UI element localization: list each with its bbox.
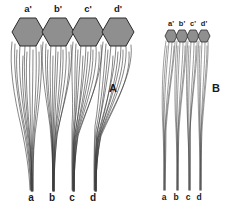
label-b-b-bottom: b (173, 192, 178, 202)
label-b-d-prime-top: d' (201, 19, 208, 28)
panel-letter-b: B (212, 82, 220, 94)
cell-b-c-prime (187, 30, 199, 42)
cell-b-d-prime (198, 30, 210, 42)
label-a-prime-top: a' (24, 3, 32, 14)
label-b-c-bottom: c (186, 192, 191, 202)
diagram-canvas: a' b' c' d' a b c d A (0, 0, 231, 208)
label-a-bottom: a (28, 192, 34, 203)
figure-root: a' b' c' d' a b c d A (0, 0, 231, 208)
label-b-d-bottom: d (196, 192, 201, 202)
label-b-bottom: b (49, 192, 55, 203)
label-c-prime-top: c' (84, 3, 92, 14)
label-b-a-bottom: a (162, 192, 167, 202)
cell-b-b-prime (176, 30, 188, 42)
label-b-prime-top: b' (54, 3, 62, 14)
label-c-bottom: c (69, 192, 75, 203)
cell-b-a-prime (165, 30, 177, 42)
label-d-bottom: d (90, 192, 96, 203)
label-d-prime-top: d' (114, 3, 122, 14)
label-b-c-prime-top: c' (190, 19, 196, 28)
panel-letter-a: A (109, 82, 117, 94)
label-b-b-prime-top: b' (179, 19, 186, 28)
label-b-a-prime-top: a' (168, 19, 174, 28)
